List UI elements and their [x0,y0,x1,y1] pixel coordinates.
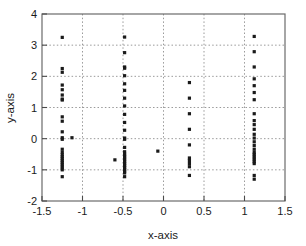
data-point [61,88,64,91]
data-point [253,65,256,68]
y-tick-label: 1 [31,102,37,114]
data-point [156,150,159,153]
data-point [188,162,191,165]
data-point [253,133,256,136]
data-point [61,148,64,151]
data-point [61,168,64,171]
data-point [123,97,126,100]
data-point [61,36,64,39]
x-tick-label: 1.5 [277,205,292,217]
data-point [123,104,126,107]
x-tick-label: -0.5 [114,205,133,217]
data-point [123,121,126,124]
y-tick-label: 2 [31,70,37,82]
x-tick-label: -1 [78,205,88,217]
data-point [253,136,256,139]
data-point [253,174,256,177]
data-point [253,128,256,131]
x-tick-label: 1 [241,205,247,217]
data-point [123,129,126,132]
data-point [253,123,256,126]
data-point [253,140,256,143]
data-point [253,98,256,101]
data-point [123,138,126,141]
y-tick-label: -1 [27,164,37,176]
y-tick-label: 4 [31,8,37,20]
data-point [188,159,191,162]
data-point [188,174,191,177]
y-tick-label: 0 [31,133,37,145]
data-point [188,81,191,84]
data-point [253,35,256,38]
data-point [61,138,64,141]
data-point [61,71,64,74]
data-point [123,67,126,70]
data-point [123,89,126,92]
data-point [188,112,191,115]
data-point [123,171,126,174]
data-point [61,83,64,86]
data-point [253,178,256,181]
x-tick-label: 0.5 [196,205,211,217]
data-point [188,165,191,168]
scatter-plot-figure: -1.5-1-0.500.511.5 -2-101234 x-axis y-ax… [0,0,306,246]
data-point [61,120,64,123]
data-point [253,162,256,165]
y-tick-label: 3 [31,39,37,51]
y-axis-title: y-axis [4,93,16,123]
data-point [123,146,126,149]
data-point [70,136,73,139]
plot-canvas: -1.5-1-0.500.511.5 -2-101234 x-axis y-ax… [0,0,306,246]
data-point [113,158,116,161]
x-tick-label: 0 [160,205,166,217]
data-point [188,143,191,146]
data-point [253,119,256,122]
data-point [253,84,256,87]
data-point [123,82,126,85]
data-point [188,128,191,131]
data-point [253,112,256,115]
data-point [253,50,256,53]
data-point [123,51,126,54]
data-point [61,93,64,96]
data-point [61,67,64,70]
data-point [123,113,126,116]
data-point [123,74,126,77]
data-point [61,130,64,133]
data-point [61,115,64,118]
x-axis-title: x-axis [148,229,178,241]
y-tick-label: -2 [27,195,37,207]
data-point [61,175,64,178]
data-point [253,77,256,80]
data-point [123,175,126,178]
data-point [61,98,64,101]
data-point [253,91,256,94]
data-point [253,144,256,147]
data-point [123,35,126,38]
data-point [253,148,256,151]
data-point [188,97,191,100]
